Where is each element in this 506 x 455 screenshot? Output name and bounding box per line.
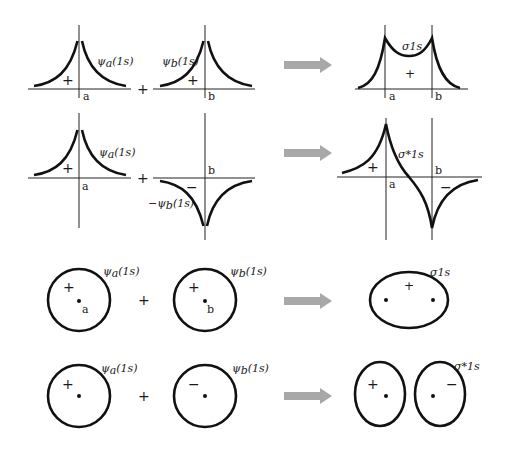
nucleus-dot-b <box>431 394 435 398</box>
sign-plus: + <box>405 67 415 81</box>
sigma-1s-ellipse: + σ1s <box>370 266 451 328</box>
sigma-1s-label: σ1s <box>430 266 451 279</box>
orbital-a-circle: + ψa(1s) <box>48 362 137 427</box>
sign-minus: − <box>440 179 452 195</box>
row-antibonding-contour: + ψa(1s) + − ψb(1s) + − σ*1s <box>48 360 480 427</box>
nucleus-label-b: b <box>208 90 215 103</box>
psi-a-plot: + a ψa(1s) <box>28 113 135 228</box>
psi-b-curve-right <box>207 181 252 226</box>
nucleus-dot <box>77 394 81 398</box>
sign-plus: + <box>63 279 75 295</box>
nucleus-label-b: b <box>435 164 442 177</box>
orbital-b-circle: + b ψb(1s) <box>174 265 267 331</box>
sign-plus: + <box>62 72 74 88</box>
plus-operator: + <box>137 81 149 97</box>
sign-plus: + <box>404 279 414 293</box>
row-bonding-contour: + a ψa(1s) + + b ψb(1s) + σ1s <box>48 265 451 331</box>
nucleus-label-b: b <box>435 90 442 103</box>
psi-b-curve-right <box>208 41 252 86</box>
nucleus-label-b: b <box>207 303 214 316</box>
sign-plus: + <box>187 72 199 88</box>
psi-b-label: ψb(1s) <box>162 55 199 70</box>
minus-psi-b-plot: − b −ψb(1s) <box>148 113 255 240</box>
nucleus-dot-a <box>384 394 388 398</box>
right-arrow-icon <box>284 145 332 161</box>
mo-diagram: + a ψa(1s) + + b ψb(1s) σ1s + a b <box>0 0 506 455</box>
sign-plus: + <box>188 279 200 295</box>
nucleus-dot-b <box>431 298 435 302</box>
row-antibonding-wavefunction: + a ψa(1s) + − b −ψb(1s) σ*1s + − a b <box>28 113 482 240</box>
orbital-a-circle: + a ψa(1s) <box>48 265 139 331</box>
plus-operator: + <box>138 388 150 404</box>
sigma-star-1s-label: σ*1s <box>454 360 480 373</box>
sigma-1s-plot: σ1s + a b <box>355 25 468 103</box>
psi-a-label: ψa(1s) <box>101 362 137 377</box>
sigma-1s-label: σ1s <box>402 40 423 53</box>
psi-a-label: ψa(1s) <box>103 265 139 280</box>
nucleus-dot <box>203 394 207 398</box>
row-bonding-wavefunction: + a ψa(1s) + + b ψb(1s) σ1s + a b <box>28 25 468 103</box>
sign-minus: − <box>446 376 458 392</box>
nucleus-dot-a <box>384 298 388 302</box>
nucleus-dot <box>77 299 81 303</box>
psi-a-plot: + a ψa(1s) <box>28 25 133 103</box>
lobe-positive-contour <box>355 362 405 426</box>
nucleus-label-a: a <box>82 180 89 193</box>
sign-minus: − <box>188 376 200 392</box>
psi-b-label: ψb(1s) <box>230 265 267 280</box>
psi-a-label: ψa(1s) <box>99 146 135 161</box>
nucleus-label-a: a <box>389 90 396 103</box>
right-arrow-icon <box>284 388 332 404</box>
psi-a-label: ψa(1s) <box>97 55 133 70</box>
sign-minus: − <box>186 179 198 195</box>
sign-plus: + <box>62 160 74 176</box>
sign-plus: + <box>367 159 379 175</box>
orbital-b-circle: − ψb(1s) <box>174 362 269 427</box>
psi-b-plot: + b ψb(1s) <box>153 25 255 103</box>
sigma-star-1s-label: σ*1s <box>398 148 424 161</box>
nucleus-label-a: a <box>82 303 89 316</box>
nucleus-label-a: a <box>389 178 396 191</box>
psi-b-label: ψb(1s) <box>232 362 269 377</box>
nucleus-label-b: b <box>208 164 215 177</box>
sigma-star-1s-curve <box>342 124 478 228</box>
right-arrow-icon <box>284 293 332 309</box>
sign-plus: + <box>62 376 74 392</box>
right-arrow-icon <box>284 57 332 73</box>
minus-psi-b-label: −ψb(1s) <box>148 197 194 212</box>
sigma-star-1s-ellipses: + − σ*1s <box>355 360 480 426</box>
nucleus-label-a: a <box>83 90 90 103</box>
sign-plus: + <box>367 376 379 392</box>
plus-operator: + <box>138 292 150 308</box>
plus-operator: + <box>137 170 149 186</box>
sigma-star-1s-plot: σ*1s + − a b <box>337 118 482 240</box>
